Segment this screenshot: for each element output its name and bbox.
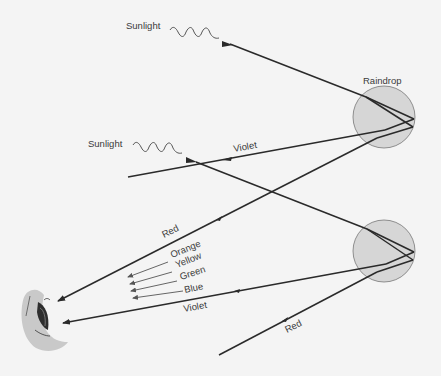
sunlight-wave-top-icon: [170, 27, 233, 47]
red-ray-lower: [219, 272, 377, 355]
rainbow-diagram: Sunlight Sunlight Raindrop Violet Red Or…: [0, 0, 441, 376]
spectrum-arrows: [128, 262, 183, 298]
label-sunlight-top: Sunlight: [126, 20, 161, 31]
label-red-upper: Red: [160, 222, 181, 240]
label-blue: Blue: [183, 280, 204, 295]
raindrop-lower: [353, 220, 415, 282]
incoming-ray-top: [230, 44, 366, 97]
label-raindrop: Raindrop: [363, 75, 402, 86]
sunlight-wave-mid-icon: [133, 142, 197, 163]
incoming-ray-mid: [196, 162, 367, 229]
label-sunlight-mid: Sunlight: [88, 138, 123, 149]
label-violet-upper: Violet: [232, 139, 257, 154]
